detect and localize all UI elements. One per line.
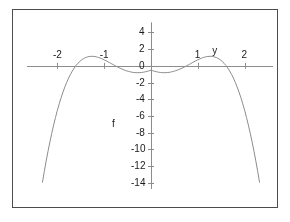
x-tick-label-2: 2 bbox=[242, 50, 248, 60]
y-tick-label-neg8: -8 bbox=[136, 128, 145, 138]
y-tick-label-neg10: -10 bbox=[131, 144, 145, 154]
y-tick-label-neg2: -2 bbox=[136, 78, 145, 88]
x-tick-label-neg2: -2 bbox=[53, 50, 62, 60]
y-tick-label-4: 4 bbox=[139, 27, 145, 37]
y-axis-label: f bbox=[112, 119, 115, 129]
x-axis-label: y bbox=[212, 46, 217, 56]
function-plot-canvas bbox=[13, 10, 279, 209]
y-tick-label-neg4: -4 bbox=[136, 94, 145, 104]
figure-root: -2-112420-2-4-6-8-10-12-14yf bbox=[0, 0, 290, 222]
plot-frame: -2-112420-2-4-6-8-10-12-14yf bbox=[12, 9, 278, 208]
y-tick-label-2: 2 bbox=[139, 44, 145, 54]
y-tick-label-neg12: -12 bbox=[131, 161, 145, 171]
x-tick-label-1: 1 bbox=[195, 50, 201, 60]
x-tick-label-neg1: -1 bbox=[100, 50, 109, 60]
y-tick-label-neg14: -14 bbox=[131, 178, 145, 188]
y-tick-label-0: 0 bbox=[139, 61, 145, 71]
y-tick-label-neg6: -6 bbox=[136, 111, 145, 121]
